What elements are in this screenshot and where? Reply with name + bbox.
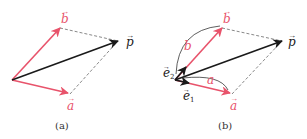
diagram-canvas: b → p → a → (a) b → p → a → b a e 2 → e … xyxy=(0,0,307,139)
vec-arrow-b-icon: → xyxy=(223,7,231,16)
vec-arrow-a-icon: → xyxy=(67,94,75,103)
vector-a-arrow xyxy=(12,80,68,93)
dashed-line-b-to-p xyxy=(222,28,282,41)
label-e2-subscript: 2 xyxy=(170,73,174,81)
vector-p-arrow xyxy=(12,41,118,80)
vector-e1-arrow xyxy=(175,80,189,83)
vec-arrow-p-icon: → xyxy=(288,31,296,40)
panel-b: b → p → a → b a e 2 → e 1 → (b) xyxy=(163,7,296,131)
dashed-line-a-to-p xyxy=(70,41,118,94)
dashed-line-a-to-p xyxy=(232,41,282,94)
caption-a: (a) xyxy=(55,120,69,131)
panel-a: b → p → a → (a) xyxy=(12,7,134,131)
label-e1-subscript: 1 xyxy=(190,96,194,104)
vec-arrow-e2-icon: → xyxy=(163,63,170,71)
caption-b: (b) xyxy=(218,120,232,131)
vec-arrow-b-icon: → xyxy=(61,7,69,16)
label-a-length: a xyxy=(207,73,214,87)
vec-arrow-a-icon: → xyxy=(230,94,238,103)
label-b-length: b xyxy=(184,39,192,53)
vec-arrow-e1-icon: → xyxy=(183,86,190,94)
dashed-line-b-to-p xyxy=(60,28,118,41)
vec-arrow-p-icon: → xyxy=(126,31,134,40)
vector-b-arrow xyxy=(12,28,60,80)
